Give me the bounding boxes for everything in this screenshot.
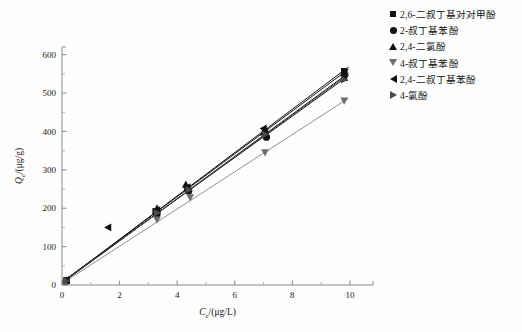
marker-glyph (390, 91, 397, 99)
marker-glyph (390, 27, 397, 34)
legend-item-label: 2-叔丁基苯酚 (400, 23, 459, 37)
y-tick-label: 500 (43, 88, 57, 98)
marker-glyph (390, 75, 397, 83)
x-tick-label: 6 (233, 290, 238, 300)
legend-item[interactable]: 4-氯酚 (386, 87, 522, 103)
square-icon (386, 7, 400, 21)
plot-canvas: 01002003004005006000246810Ce/(μg/L)Qe/(μ… (0, 0, 400, 332)
marker-glyph (389, 59, 397, 66)
marker-glyph (390, 11, 397, 18)
triangle-down-icon (386, 56, 400, 70)
legend-item-label: 4-氯酚 (400, 88, 428, 102)
triangle-right-icon (386, 88, 400, 102)
x-tick-label: 4 (175, 290, 180, 300)
fit-line-4 (63, 69, 348, 281)
legend-item[interactable]: 2,6-二叔丁基对对甲酚 (386, 6, 522, 22)
x-axis-title: Ce/(μg/L) (199, 307, 236, 320)
y-tick-label: 300 (43, 165, 57, 175)
fit-line-3 (63, 98, 348, 282)
legend-item[interactable]: 2-叔丁基苯酚 (386, 22, 522, 38)
fit-line-5 (63, 74, 348, 281)
x-tick-label: 2 (117, 290, 122, 300)
x-tick-label: 10 (345, 290, 355, 300)
y-tick-label: 600 (43, 50, 57, 60)
x-tick-label: 0 (60, 290, 65, 300)
scatter-plot: 01002003004005006000246810Ce/(μg/L)Qe/(μ… (0, 0, 400, 332)
y-tick-label: 100 (43, 242, 57, 252)
legend-item-label: 2,4-二叔丁基苯酚 (400, 72, 476, 86)
legend-item[interactable]: 2,4-二氯酚 (386, 38, 522, 54)
chart-root: 01002003004005006000246810Ce/(μg/L)Qe/(μ… (0, 0, 522, 332)
x-tick-label: 8 (290, 290, 295, 300)
circle-icon (386, 23, 400, 37)
triangle-up-icon (386, 39, 400, 53)
y-axis-title: Qe/(μg/g) (14, 148, 27, 184)
legend-item[interactable]: 2,4-二叔丁基苯酚 (386, 71, 522, 87)
legend-item-label: 2,6-二叔丁基对对甲酚 (400, 7, 496, 21)
triangle-left-icon (386, 72, 400, 86)
legend-item-label: 4-叔丁基苯酚 (400, 56, 459, 70)
marker-glyph (389, 43, 397, 50)
svg-text:Ce/(μg/L): Ce/(μg/L) (199, 307, 236, 320)
svg-text:Qe/(μg/g): Qe/(μg/g) (14, 148, 27, 184)
legend-item-label: 2,4-二氯酚 (400, 39, 446, 53)
y-tick-label: 0 (52, 280, 57, 290)
chart-legend: 2,6-二叔丁基对对甲酚2-叔丁基苯酚2,4-二氯酚4-叔丁基苯酚2,4-二叔丁… (386, 6, 522, 103)
legend-item[interactable]: 4-叔丁基苯酚 (386, 55, 522, 71)
y-tick-label: 200 (43, 203, 57, 213)
y-tick-label: 400 (43, 127, 57, 137)
